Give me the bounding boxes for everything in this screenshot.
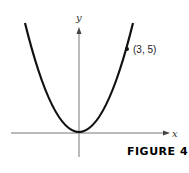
- point-marker: [125, 47, 129, 51]
- x-axis-arrow-icon: [163, 131, 170, 136]
- x-axis-label: x: [172, 128, 178, 139]
- figure-caption: FIGURE 4: [127, 145, 188, 158]
- point-label: (3, 5): [133, 44, 156, 55]
- y-axis-label: y: [75, 12, 82, 23]
- y-axis-arrow-icon: [77, 27, 82, 34]
